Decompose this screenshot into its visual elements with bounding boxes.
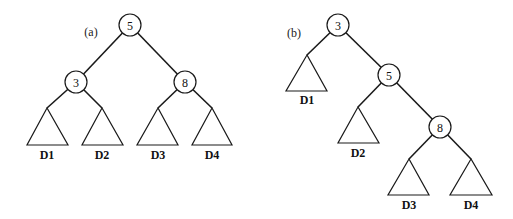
tree-node-key: 3 (73, 76, 79, 90)
subtree-label-d1: D1 (300, 93, 315, 107)
tree-node-key: 8 (182, 76, 188, 90)
subtree-label-d4: D4 (205, 148, 220, 162)
tree-node-key: 8 (437, 121, 443, 135)
panel-label-b: (b) (287, 26, 301, 40)
tree-node-key: 3 (335, 19, 341, 33)
panel-label-a: (a) (84, 25, 97, 39)
subtree-label-d2: D2 (95, 148, 110, 162)
subtree-triangle-d2 (82, 108, 123, 145)
subtree-triangle-d4 (192, 108, 232, 145)
panel-a-tree: D1D2D3D4538(a) (27, 14, 232, 162)
subtree-label-d3: D3 (151, 148, 166, 162)
tree-edge (130, 25, 185, 82)
subtree-triangle-d3 (137, 108, 178, 145)
subtree-label-d2: D2 (351, 146, 366, 160)
tree-node-key: 5 (127, 19, 133, 33)
binary-tree-rotation-diagram: D1D2D3D4538(a) D1D2D3D4358(b) (0, 0, 513, 219)
tree-node-key: 5 (386, 69, 392, 83)
subtree-triangle-d4 (450, 159, 492, 195)
subtree-label-d4: D4 (464, 198, 479, 212)
subtree-triangle-d2 (338, 107, 379, 143)
subtree-label-d3: D3 (402, 198, 417, 212)
subtree-label-d1: D1 (40, 148, 55, 162)
subtree-triangle-d1 (286, 55, 327, 91)
subtree-triangle-d3 (388, 159, 429, 195)
panel-b-tree: D1D2D3D4358(b) (286, 14, 492, 212)
subtree-triangle-d1 (27, 108, 68, 145)
